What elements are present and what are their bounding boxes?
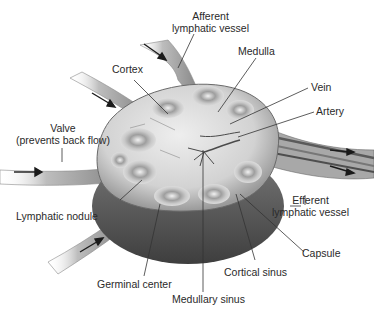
label-efferent-lymphatic-vessel: Efferent lymphatic vessel: [272, 194, 349, 218]
label-cortical-sinus: Cortical sinus: [224, 266, 287, 278]
label-artery: Artery: [316, 105, 344, 117]
label-germinal-center: Germinal center: [97, 278, 172, 290]
label-medulla: Medulla: [238, 45, 275, 57]
label-lymphatic-nodule: Lymphatic nodule: [16, 210, 98, 222]
label-vein: Vein: [311, 81, 331, 93]
lymph-node-illustration: [0, 0, 374, 310]
label-valve: Valve (prevents back flow): [16, 122, 110, 146]
label-capsule: Capsule: [302, 247, 341, 259]
label-medullary-sinus: Medullary sinus: [172, 293, 245, 305]
label-cortex: Cortex: [112, 63, 143, 75]
label-afferent-lymphatic-vessel: Afferent lymphatic vessel: [172, 10, 249, 34]
